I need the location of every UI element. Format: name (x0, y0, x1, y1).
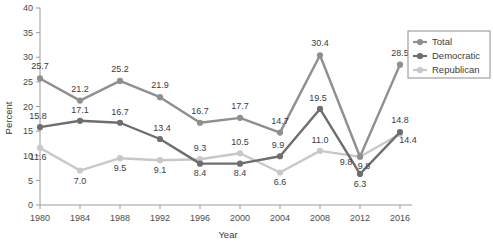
data-point (157, 136, 163, 142)
data-label: 16.7 (111, 107, 129, 117)
data-point (117, 78, 123, 84)
data-point (77, 167, 83, 173)
x-axis-title: Year (218, 229, 237, 240)
legend-label: Republican (432, 64, 480, 75)
data-point (277, 169, 283, 175)
data-label: 10.5 (231, 137, 249, 147)
legend-swatch-marker (417, 53, 423, 59)
data-label: 6.6 (274, 177, 287, 187)
line-chart: 0510152025303540 19801984198819921996200… (0, 0, 493, 243)
data-point (37, 145, 43, 151)
y-tick-label: 0 (28, 200, 33, 210)
data-label: 14.4 (399, 135, 417, 145)
x-tick-label: 1988 (110, 213, 130, 223)
data-point (397, 62, 403, 68)
data-point (197, 120, 203, 126)
data-point (237, 161, 243, 167)
x-tick-label: 2000 (230, 213, 250, 223)
data-label: 7.0 (74, 176, 87, 186)
x-tick-label: 2008 (310, 213, 330, 223)
data-point (157, 94, 163, 100)
legend[interactable]: TotalDemocraticRepublican (408, 31, 490, 78)
data-point (317, 148, 323, 154)
data-label: 21.9 (151, 80, 169, 90)
data-label: 14.7 (271, 116, 289, 126)
x-tick-label: 1992 (150, 213, 170, 223)
chart-canvas: 0510152025303540 19801984198819921996200… (0, 0, 493, 243)
y-tick-label: 40 (23, 3, 33, 13)
series-line-total (40, 55, 400, 156)
data-point (277, 130, 283, 136)
data-label: 11.0 (312, 135, 329, 145)
data-label: 9.5 (114, 163, 127, 173)
y-axis: 0510152025303540 (23, 3, 40, 210)
data-point (357, 154, 363, 160)
legend-label: Democratic (432, 50, 480, 61)
data-label: 25.2 (111, 64, 129, 74)
x-tick-label: 2004 (270, 213, 290, 223)
data-label: 11.6 (30, 152, 47, 162)
legend-swatch-marker (417, 67, 423, 73)
data-point (317, 52, 323, 58)
data-label: 13.4 (153, 123, 171, 133)
legend-label: Total (432, 36, 452, 47)
data-point (237, 150, 243, 156)
data-point (77, 118, 83, 124)
data-label: 9.3 (194, 143, 207, 153)
data-label: 9.1 (154, 165, 167, 175)
y-tick-label: 5 (28, 176, 33, 186)
y-tick-label: 35 (23, 28, 33, 38)
data-point (117, 120, 123, 126)
data-label: 9.8 (340, 157, 353, 167)
data-label: 17.1 (71, 105, 89, 115)
data-labels-layer: 25.721.225.221.916.717.714.730.49.828.51… (29, 38, 417, 189)
y-tick-label: 15 (23, 126, 33, 136)
data-label: 8.4 (234, 168, 247, 178)
legend-swatch-marker (417, 39, 423, 45)
y-tick-label: 25 (23, 77, 33, 87)
data-label: 17.7 (231, 101, 249, 111)
data-label: 21.2 (71, 84, 89, 94)
data-point (37, 124, 43, 130)
data-point (237, 115, 243, 121)
data-label: 8.4 (194, 168, 207, 178)
y-axis-title: Percent (3, 101, 14, 134)
data-label: 15.8 (29, 111, 47, 121)
x-tick-label: 1996 (190, 213, 210, 223)
data-point (117, 155, 123, 161)
data-point (157, 157, 163, 163)
data-label: 14.8 (391, 115, 409, 125)
data-point (277, 153, 283, 159)
data-point (317, 106, 323, 112)
data-point (77, 97, 83, 103)
data-label: 19.5 (309, 93, 327, 103)
data-label: 9.9 (272, 140, 285, 150)
x-tick-label: 2016 (390, 213, 410, 223)
data-label: 6.3 (354, 179, 367, 189)
data-label: 25.7 (31, 61, 49, 71)
data-label: 9.8 (358, 161, 371, 171)
data-label: 30.4 (311, 38, 329, 48)
x-tick-label: 1980 (30, 213, 50, 223)
x-axis: 1980198419881992199620002004200820122016 (30, 205, 412, 223)
data-point (357, 171, 363, 177)
data-point (197, 161, 203, 167)
data-point (37, 75, 43, 81)
x-tick-label: 1984 (70, 213, 90, 223)
data-label: 16.7 (191, 106, 209, 116)
data-label: 28.5 (391, 48, 409, 58)
x-tick-label: 2012 (350, 213, 370, 223)
